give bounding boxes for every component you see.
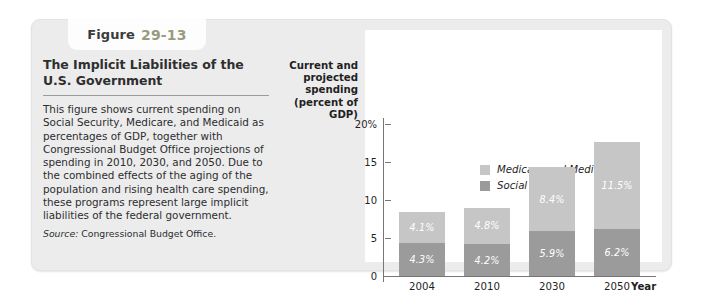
x-axis-tick-label: 2030 (529, 281, 575, 292)
bar-segment-medicare-medicaid: 4.1% (399, 212, 445, 243)
bar-value-label: 8.4% (540, 194, 565, 205)
bar-2010: 4.8%4.2% (464, 208, 510, 276)
y-axis-tick-label: 5 (371, 233, 377, 244)
bar-2050: 11.5%6.2% (594, 142, 640, 277)
bar-2004: 4.1%4.3% (399, 212, 445, 276)
y-axis-tick-label: 15 (364, 157, 377, 168)
y-axis-tick (385, 200, 391, 201)
bar-segment-social-security: 4.2% (464, 244, 510, 276)
x-axis-tick-label: 2004 (399, 281, 445, 292)
y-axis-tick (385, 238, 391, 239)
bar-2030: 8.4%5.9% (529, 167, 575, 276)
bar-segment-medicare-medicaid: 11.5% (594, 142, 640, 229)
bar-segment-medicare-medicaid: 4.8% (464, 208, 510, 244)
figure-label: Figure (87, 27, 135, 42)
x-axis-title: Year (631, 281, 656, 292)
y-axis-tick-label: 10 (364, 195, 377, 206)
figure-title: The Implicit Liabilities of the U.S. Gov… (43, 57, 269, 88)
y-axis-title: Current and projected spending (percent … (280, 60, 358, 121)
bar-value-label: 4.8% (475, 220, 500, 231)
y-axis-tick (385, 276, 391, 277)
bar-segment-social-security: 5.9% (529, 231, 575, 276)
y-axis-tick (385, 124, 391, 125)
y-axis-tick (385, 162, 391, 163)
legend-swatch-medicare-medicaid (480, 165, 490, 175)
legend-swatch-social-security (480, 181, 490, 191)
bar-segment-social-security: 4.3% (399, 243, 445, 276)
y-axis-tick-label: 0 (371, 271, 377, 282)
chart-plot-area: Medicare and Medicaid Social Security 05… (384, 124, 656, 276)
figure-text-column: The Implicit Liabilities of the U.S. Gov… (43, 57, 269, 240)
figure-source: Source: Congressional Budget Office. (43, 228, 269, 240)
x-axis-tick-label: 2010 (464, 281, 510, 292)
figure-caption-body: This figure shows current spending on So… (43, 103, 269, 223)
bar-value-label: 11.5% (602, 180, 633, 191)
x-axis-line (383, 276, 656, 277)
source-text: Congressional Budget Office. (81, 228, 216, 239)
figure-number: 29-13 (141, 27, 187, 43)
bar-value-label: 4.1% (410, 222, 435, 233)
bar-segment-social-security: 6.2% (594, 229, 640, 276)
source-label: Source: (43, 228, 78, 239)
bar-value-label: 4.3% (410, 254, 435, 265)
figure-number-tab: Figure 29-13 (68, 19, 206, 50)
bar-value-label: 6.2% (605, 247, 630, 258)
y-axis-line (383, 118, 384, 282)
bar-segment-medicare-medicaid: 8.4% (529, 167, 575, 231)
figure-card: Figure 29-13 The Implicit Liabilities of… (31, 19, 672, 271)
title-divider (43, 95, 269, 96)
bar-value-label: 5.9% (540, 248, 565, 259)
bar-value-label: 4.2% (475, 255, 500, 266)
y-axis-tick-label: 20% (355, 119, 377, 130)
